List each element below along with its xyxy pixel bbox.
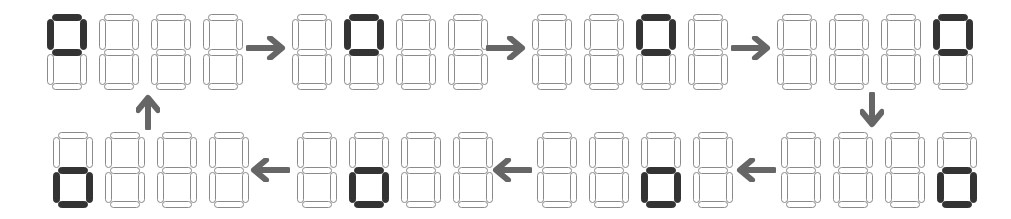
seven-segment-digit [343, 14, 385, 90]
segment-d [297, 83, 327, 90]
segment-a [886, 14, 916, 21]
segment-c-lit [674, 172, 681, 203]
segment-a [537, 14, 567, 21]
segment-e [881, 54, 888, 85]
segment-d [890, 201, 920, 208]
segment-g [782, 49, 812, 56]
seven-segment-digit [692, 132, 734, 208]
segment-e [292, 54, 299, 85]
segment-f [777, 19, 784, 50]
segment-g [156, 49, 186, 56]
segment-g [214, 167, 244, 174]
segment-b [726, 137, 733, 168]
segment-e [344, 54, 351, 85]
segment-g [110, 167, 140, 174]
segment-f [349, 137, 356, 168]
segment-c [236, 54, 243, 85]
segment-a [453, 14, 483, 21]
segment-g [162, 167, 192, 174]
segment-a-lit [349, 14, 379, 21]
segment-e [833, 172, 840, 203]
arrow-right-icon [731, 36, 771, 60]
segment-f [584, 19, 591, 50]
seven-segment-digit [780, 132, 822, 208]
segment-e [584, 54, 591, 85]
segment-e [396, 54, 403, 85]
segment-c [132, 54, 139, 85]
segment-d [698, 201, 728, 208]
segment-f [448, 19, 455, 50]
segment-c [966, 54, 973, 85]
segment-d [838, 201, 868, 208]
seven-segment-digit [832, 132, 874, 208]
segment-b [429, 19, 436, 50]
segment-e-lit [641, 172, 648, 203]
segment-b [382, 137, 389, 168]
segment-c [429, 54, 436, 85]
seven-segment-digit [635, 14, 677, 90]
segment-b [866, 137, 873, 168]
seven-segment-digit [932, 14, 974, 90]
segment-a [698, 132, 728, 139]
segment-f-lit [933, 19, 940, 50]
segment-d [886, 83, 916, 90]
segment-e [933, 54, 940, 85]
seven-segment-digit [46, 14, 88, 90]
segment-a [406, 132, 436, 139]
segment-e [453, 172, 460, 203]
segment-d [453, 83, 483, 90]
arrow-down-icon [860, 92, 884, 128]
segment-d [594, 201, 624, 208]
segment-g [890, 167, 920, 174]
segment-c [669, 54, 676, 85]
segment-d-lit [58, 201, 88, 208]
segment-e [99, 54, 106, 85]
segment-f [937, 137, 944, 168]
seven-segment-digit [452, 132, 494, 208]
seven-segment-digit [536, 132, 578, 208]
segment-b [810, 19, 817, 50]
segment-f [157, 137, 164, 168]
seven-segment-digit [296, 132, 338, 208]
segment-g [786, 167, 816, 174]
segment-e [688, 54, 695, 85]
segment-f [396, 19, 403, 50]
segment-c [80, 54, 87, 85]
segment-b [434, 137, 441, 168]
seven-segment-digit [52, 132, 94, 208]
segment-g [297, 49, 327, 56]
segment-b [184, 19, 191, 50]
seven-segment-digit [687, 14, 729, 90]
segment-f [53, 137, 60, 168]
segment-a [693, 14, 723, 21]
segment-a [297, 14, 327, 21]
segment-b [330, 137, 337, 168]
segment-a [58, 132, 88, 139]
seven-segment-digit [588, 132, 630, 208]
segment-f [781, 137, 788, 168]
segment-d [542, 201, 572, 208]
segment-g-lit [942, 167, 972, 174]
segment-f-lit [47, 19, 54, 50]
segment-c [330, 172, 337, 203]
segment-d [401, 83, 431, 90]
seven-segment-digit [98, 14, 140, 90]
segment-b [970, 137, 977, 168]
segment-c [325, 54, 332, 85]
segment-d [537, 83, 567, 90]
segment-f [151, 19, 158, 50]
segment-a [104, 14, 134, 21]
segment-b [236, 19, 243, 50]
segment-a [782, 14, 812, 21]
segment-b [617, 19, 624, 50]
segment-g [698, 167, 728, 174]
segment-d [693, 83, 723, 90]
segment-e [297, 172, 304, 203]
segment-e [829, 54, 836, 85]
segment-c [914, 54, 921, 85]
segment-f [589, 137, 596, 168]
segment-c-lit [970, 172, 977, 203]
segment-d [302, 201, 332, 208]
segment-e [885, 172, 892, 203]
segment-d [208, 83, 238, 90]
